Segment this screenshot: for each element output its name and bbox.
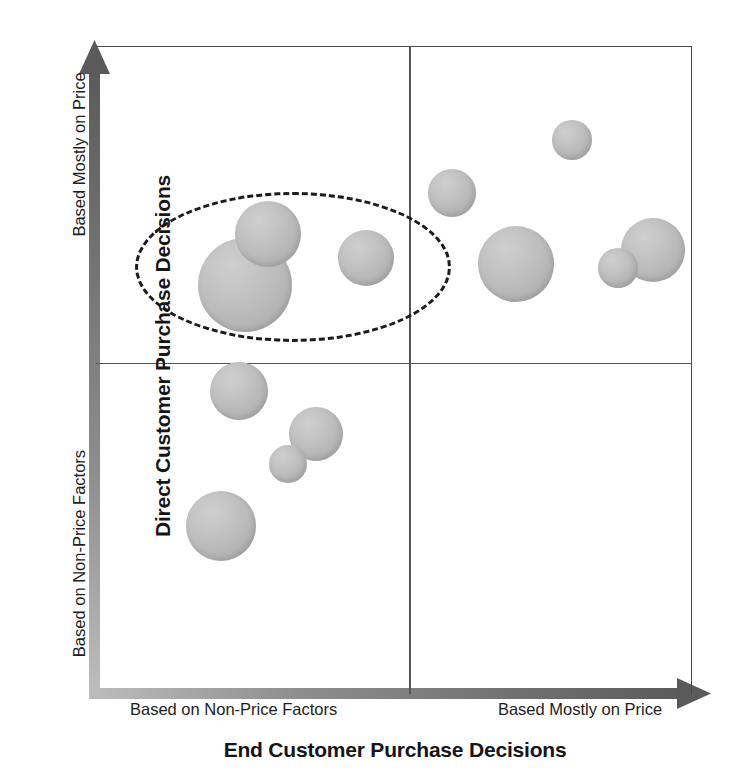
x-axis-tick-label-left: Based on Non-Price Factors: [130, 700, 335, 719]
y-axis-tick-label-top: Based Mostly on Price: [70, 60, 89, 250]
bubble-p8: [598, 248, 638, 288]
bubble-p6: [478, 226, 554, 302]
x-axis-title: End Customer Purchase Decisions: [95, 738, 695, 762]
y-axis-title: Direct Customer Purchase Decisions: [151, 46, 175, 666]
bubble-p9: [210, 362, 268, 420]
bubble-p12: [186, 491, 256, 561]
plot-area-border: [96, 46, 692, 694]
quadrant-divider-vertical: [409, 46, 411, 694]
bubble-p4: [428, 169, 476, 217]
bubble-p5: [552, 120, 592, 160]
quadrant-divider-horizontal: [96, 363, 692, 364]
quadrant-bubble-chart: Direct Customer Purchase Decisions Based…: [0, 0, 751, 769]
x-axis-tick-label-right: Based Mostly on Price: [480, 700, 680, 719]
bubble-p11: [269, 445, 307, 483]
y-axis-tick-label-bottom: Based on Non-Price Factors: [70, 445, 89, 663]
highlight-ellipse: [135, 192, 451, 342]
